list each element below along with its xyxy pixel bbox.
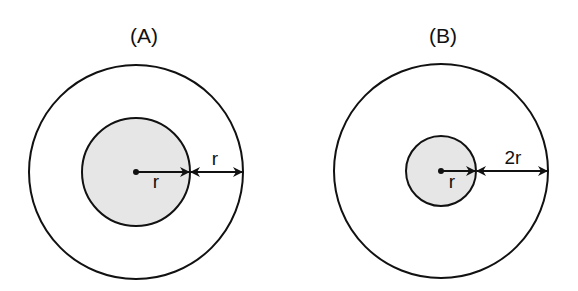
radius-label-a: r bbox=[153, 171, 160, 192]
radius-label-b: r bbox=[449, 171, 456, 192]
gap-label-b: 2r bbox=[505, 147, 523, 168]
figure-a-label: (A) bbox=[130, 24, 158, 47]
figure-a: (A) r r bbox=[29, 24, 243, 279]
figure-b-label: (B) bbox=[429, 24, 457, 47]
figure-b: (B) r 2r bbox=[334, 24, 548, 278]
concentric-circles-diagram: (A) r r (B) r 2r bbox=[0, 0, 578, 291]
diagram-canvas: (A) r r (B) r 2r bbox=[0, 0, 578, 291]
gap-label-a: r bbox=[212, 148, 219, 169]
